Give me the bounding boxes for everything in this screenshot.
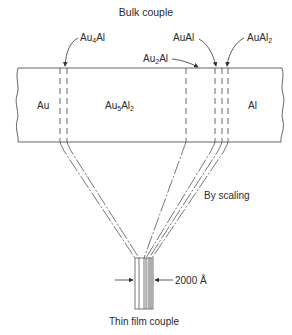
thin-film-couple-label: Thin film couple <box>109 316 179 327</box>
diagram-canvas: Bulk couple Au Au5Al2 Al Au4Al Au2Al AuA… <box>0 0 292 335</box>
arrow-au2al <box>172 59 198 67</box>
thin-film-shading <box>146 258 153 309</box>
callout-au4al: Au4Al <box>80 32 105 44</box>
arrow-aual <box>199 39 216 66</box>
phase-label-al: Al <box>248 100 257 111</box>
bulk-couple-block <box>16 68 284 142</box>
phase-label-au5al2: Au5Al2 <box>105 100 134 112</box>
phase-boundaries <box>60 68 228 142</box>
arrow-au4al <box>65 38 78 66</box>
callout-aual: AuAl <box>173 32 194 43</box>
callout-au2al: Au2Al <box>143 53 168 65</box>
dimension-label: 2000 Å <box>175 274 207 286</box>
by-scaling-label: By scaling <box>204 190 250 201</box>
phase-label-au: Au <box>37 100 49 111</box>
arrow-aual2 <box>227 38 244 66</box>
callout-aual2: AuAl2 <box>247 32 272 44</box>
scaling-lines <box>60 142 228 258</box>
bulk-couple-title: Bulk couple <box>119 6 173 18</box>
